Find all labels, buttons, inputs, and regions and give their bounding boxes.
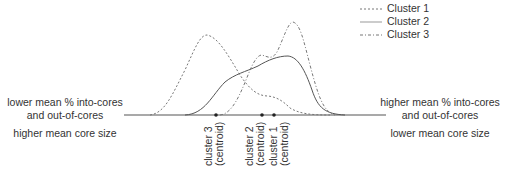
legend-item-cluster-3: Cluster 3	[358, 28, 429, 41]
centroid-marker-cluster-1	[272, 113, 276, 117]
density-chart: cluster 3 (centroid) cluster 2 (centroid…	[0, 0, 512, 170]
centroid-label-cluster-2: cluster 2 (centroid)	[243, 122, 266, 166]
svg-text:(centroid): (centroid)	[278, 122, 290, 166]
solid-line-icon	[358, 15, 384, 28]
right-annotation-line-2: and out-of-cores	[370, 109, 510, 122]
legend-item-cluster-1: Cluster 1	[358, 2, 429, 15]
series-cluster-3-curve	[150, 35, 330, 115]
chart-legend: Cluster 1 Cluster 2 Cluster 3	[358, 2, 429, 41]
legend-label: Cluster 2	[387, 15, 429, 28]
legend-label: Cluster 3	[387, 28, 429, 41]
legend-label: Cluster 1	[387, 2, 429, 15]
right-annotation-line-1: higher mean % into-cores	[370, 96, 510, 109]
left-annotation-line-3: higher mean core size	[2, 127, 128, 140]
legend-item-cluster-2: Cluster 2	[358, 15, 429, 28]
series-cluster-2-curve	[185, 56, 345, 115]
centroid-marker-cluster-3	[214, 113, 218, 117]
left-axis-annotation: lower mean % into-cores and out-of-cores…	[2, 96, 128, 140]
left-annotation-line-2: and out-of-cores	[2, 109, 128, 122]
left-annotation-line-1: lower mean % into-cores	[2, 96, 128, 109]
right-axis-annotation: higher mean % into-cores and out-of-core…	[370, 96, 510, 140]
right-annotation-line-3: lower mean core size	[370, 127, 510, 140]
svg-text:(centroid): (centroid)	[213, 122, 225, 166]
centroid-label-cluster-3: cluster 3 (centroid)	[202, 122, 225, 166]
dotted-line-icon	[358, 2, 384, 15]
dash-dot-line-icon	[358, 28, 384, 41]
series-cluster-1-curve	[220, 22, 335, 115]
centroid-marker-cluster-2	[260, 113, 264, 117]
centroid-label-cluster-1: cluster 1 (centroid)	[267, 122, 290, 166]
svg-text:(centroid): (centroid)	[254, 122, 266, 166]
